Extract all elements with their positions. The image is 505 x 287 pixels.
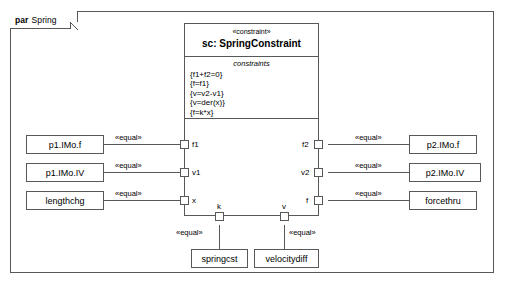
- frame-keyword: par: [15, 15, 29, 25]
- port-label-v1: v1: [192, 168, 200, 177]
- constraint-block[interactable]: «constraint» sc: SpringConstraint constr…: [184, 23, 319, 216]
- value-box-label: velocitydiff: [266, 254, 308, 264]
- port-x[interactable]: [180, 196, 189, 205]
- constraints-compartment-title: constraints: [185, 59, 318, 69]
- connector-line-right-1: [328, 144, 409, 145]
- constraint-expression: {v=v2-v1}: [190, 89, 318, 98]
- connector-label-left-3: «equal»: [115, 189, 142, 198]
- value-box-velocitydiff[interactable]: velocitydiff: [254, 249, 319, 268]
- port-label-k: k: [217, 202, 221, 211]
- value-box-label: p2.IMo.IV: [426, 168, 465, 178]
- connector-line-left-2: [104, 172, 184, 173]
- constraint-expression: {f1+f2=0}: [190, 70, 318, 79]
- connector-label-right-2: «equal»: [355, 161, 382, 170]
- connector-label-right-3: «equal»: [355, 189, 382, 198]
- constraint-block-header: «constraint» sc: SpringConstraint: [185, 24, 318, 57]
- port-v1[interactable]: [180, 168, 189, 177]
- port-label-x: x: [192, 196, 196, 205]
- constraint-block-name: sc: SpringConstraint: [185, 37, 318, 50]
- connector-line-right-2: [328, 172, 409, 173]
- frame-tab-corner-icon: [70, 22, 78, 30]
- connector-line-bottom-2: [284, 225, 285, 249]
- value-box-label: lengthchg: [45, 196, 84, 206]
- diagram-canvas: par Spring «constraint» sc: SpringConstr…: [0, 0, 505, 287]
- value-box-label: p1.IMo.f: [49, 140, 82, 150]
- value-box-label: p2.IMo.f: [427, 140, 460, 150]
- connector-line-right-3: [328, 200, 409, 201]
- value-box-p1-imo-iv[interactable]: p1.IMo.IV: [26, 163, 104, 182]
- value-box-lengthchg[interactable]: lengthchg: [26, 191, 104, 210]
- port-k[interactable]: [215, 212, 224, 221]
- constraint-expression-list: {f1+f2=0} {f=f1} {v=v2-v1} {v=der(x)} {f…: [185, 70, 318, 117]
- value-box-label: p1.IMo.IV: [46, 168, 85, 178]
- connector-line-left-1: [104, 144, 184, 145]
- connector-label-left-1: «equal»: [115, 133, 142, 142]
- value-box-p2-imo-f[interactable]: p2.IMo.f: [409, 135, 477, 154]
- value-box-springcst[interactable]: springcst: [191, 249, 248, 268]
- port-label-f1: f1: [192, 140, 199, 149]
- connector-line-bottom-1: [219, 225, 220, 249]
- constraint-expression: {f=k*x}: [190, 108, 318, 117]
- frame-name: Spring: [32, 15, 57, 25]
- connector-label-right-1: «equal»: [355, 133, 382, 142]
- port-label-f: f: [306, 196, 308, 205]
- port-f2[interactable]: [314, 140, 323, 149]
- port-label-f2: f2: [302, 140, 309, 149]
- constraints-compartment: constraints {f1+f2=0} {f=f1} {v=v2-v1} {…: [185, 57, 318, 119]
- connector-line-left-3: [104, 200, 184, 201]
- port-v[interactable]: [280, 212, 289, 221]
- value-box-p1-imo-f[interactable]: p1.IMo.f: [26, 135, 104, 154]
- constraint-expression: {f=f1}: [190, 79, 318, 88]
- port-v2[interactable]: [314, 168, 323, 177]
- connector-label-bottom-2: «equal»: [289, 228, 316, 237]
- connector-label-left-2: «equal»: [115, 161, 142, 170]
- value-box-forcethru[interactable]: forcethru: [409, 191, 477, 210]
- port-label-v2: v2: [301, 168, 309, 177]
- value-box-label: springcst: [201, 254, 237, 264]
- constraint-block-stereotype: «constraint»: [185, 27, 318, 37]
- value-box-label: forcethru: [425, 196, 461, 206]
- port-f[interactable]: [314, 196, 323, 205]
- connector-label-bottom-1: «equal»: [176, 228, 203, 237]
- port-f1[interactable]: [180, 140, 189, 149]
- port-label-v: v: [282, 202, 286, 211]
- constraint-expression: {v=der(x)}: [190, 98, 318, 107]
- value-box-p2-imo-iv[interactable]: p2.IMo.IV: [409, 163, 481, 182]
- frame-title-tab: par Spring: [10, 11, 78, 29]
